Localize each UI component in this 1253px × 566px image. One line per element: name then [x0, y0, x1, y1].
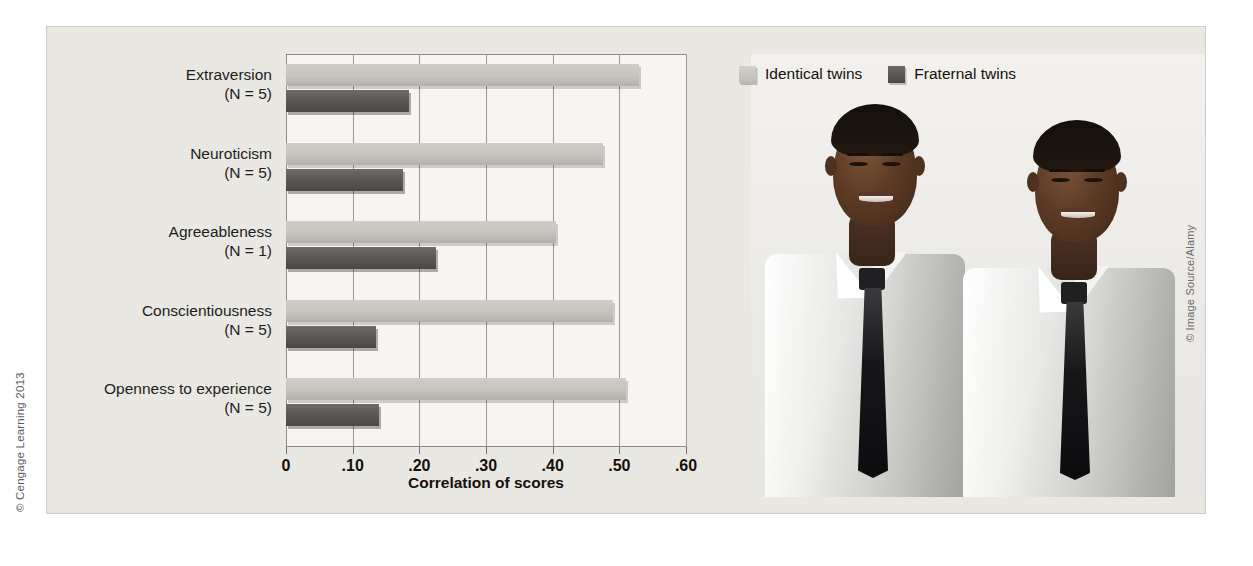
x-tick-label: .20 — [389, 457, 449, 475]
category-name: Agreeableness — [169, 223, 272, 240]
x-tick-mark — [686, 447, 687, 454]
category-sample-size: (N = 5) — [47, 320, 272, 339]
category-label: Conscientiousness(N = 5) — [47, 301, 272, 339]
category-label: Agreeableness(N = 1) — [47, 222, 272, 260]
category-sample-size: (N = 5) — [47, 84, 272, 103]
x-tick-label: .60 — [656, 457, 716, 475]
bar-identical-twins — [286, 378, 626, 400]
category-sample-size: (N = 5) — [47, 398, 272, 417]
x-axis-title: Correlation of scores — [286, 474, 686, 492]
category-label: Neuroticism(N = 5) — [47, 144, 272, 182]
x-tick-label: .10 — [323, 457, 383, 475]
bar-fraternal-twins — [286, 247, 436, 269]
category-sample-size: (N = 5) — [47, 163, 272, 182]
x-tick-mark — [353, 447, 354, 454]
x-tick-label: .50 — [589, 457, 649, 475]
bar-identical-twins — [286, 143, 603, 165]
bar-identical-twins — [286, 300, 613, 322]
bar-chart: Extraversion(N = 5)Neuroticism(N = 5)Agr… — [47, 27, 1206, 514]
category-name: Conscientiousness — [142, 302, 272, 319]
figure-panel: Extraversion(N = 5)Neuroticism(N = 5)Agr… — [0, 0, 1253, 566]
category-name: Extraversion — [186, 66, 272, 83]
chart-legend: Identical twins Fraternal twins — [739, 65, 1016, 83]
x-tick-mark — [619, 447, 620, 454]
legend-swatch-fraternal-icon — [888, 66, 905, 83]
bar-identical-twins — [286, 64, 639, 86]
bar-fraternal-twins — [286, 326, 376, 348]
credit-alamy: © Image Source/Alamy — [1184, 225, 1196, 342]
bar-identical-twins — [286, 221, 556, 243]
legend-item-identical: Identical twins — [739, 65, 862, 83]
x-tick-label: 0 — [256, 457, 316, 475]
legend-label-fraternal: Fraternal twins — [914, 65, 1016, 83]
category-sample-size: (N = 1) — [47, 241, 272, 260]
x-tick-label: .40 — [523, 457, 583, 475]
bar-fraternal-twins — [286, 169, 403, 191]
bar-fraternal-twins — [286, 404, 379, 426]
x-tick-mark — [419, 447, 420, 454]
category-label: Extraversion(N = 5) — [47, 65, 272, 103]
legend-swatch-identical-icon — [739, 66, 756, 83]
x-tick-mark — [286, 447, 287, 454]
x-tick-label: .30 — [456, 457, 516, 475]
chart-panel: Extraversion(N = 5)Neuroticism(N = 5)Agr… — [46, 26, 1206, 514]
category-name: Neuroticism — [190, 145, 272, 162]
bar-fraternal-twins — [286, 90, 409, 112]
legend-item-fraternal: Fraternal twins — [888, 65, 1016, 83]
credit-cengage: © Cengage Learning 2013 — [14, 372, 26, 512]
x-tick-mark — [553, 447, 554, 454]
gridline — [686, 54, 687, 447]
x-tick-mark — [486, 447, 487, 454]
legend-label-identical: Identical twins — [765, 65, 862, 83]
category-name: Openness to experience — [104, 380, 272, 397]
category-label: Openness to experience(N = 5) — [47, 379, 272, 417]
